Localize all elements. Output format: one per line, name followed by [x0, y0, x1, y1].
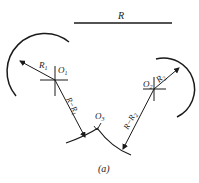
o1-label: O1 — [58, 65, 68, 76]
arc-tangent-construction-diagram: R R1 O1 R−R1 R2 O2 R−R2 O3 (a) — [0, 0, 199, 183]
r1-radius-arrow — [20, 61, 55, 80]
diagram-canvas: R R1 O1 R−R1 R2 O2 R−R2 O3 (a) — [0, 0, 199, 183]
o3-label: O3 — [95, 111, 105, 122]
o3-marker — [94, 123, 101, 130]
reference-length-label: R — [117, 10, 124, 21]
figure-caption: (a) — [98, 163, 110, 175]
r1-label: R1 — [38, 60, 48, 71]
r-minus-r2-label: R−R2 — [121, 111, 139, 133]
o2-label: O2 — [143, 79, 153, 90]
arc-right-lower — [97, 128, 131, 155]
arc-r2 — [156, 58, 195, 117]
r-minus-r1-label: R−R1 — [63, 95, 81, 117]
r2-label: R2 — [153, 71, 167, 86]
